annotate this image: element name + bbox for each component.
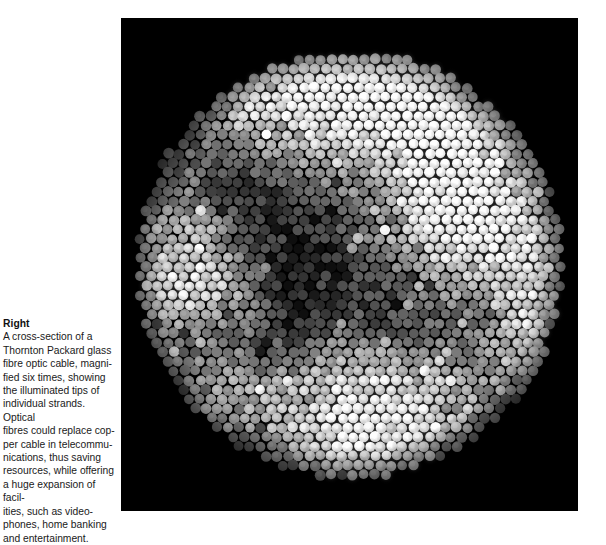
photo-panel: [121, 18, 578, 511]
figure-caption: Right A cross-section of a Thornton Pack…: [3, 317, 117, 545]
fibre-optic-cross-section-image: [121, 18, 578, 511]
fibre-bundle-canvas: [121, 18, 578, 511]
caption-heading: Right: [3, 317, 117, 330]
caption-body-text: A cross-section of a Thornton Packard gl…: [3, 330, 117, 545]
